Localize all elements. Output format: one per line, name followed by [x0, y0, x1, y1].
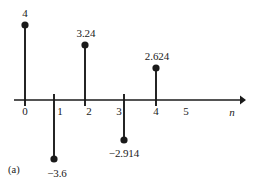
axis-tick-label: 2	[86, 106, 92, 117]
stem-value-label: 4	[22, 8, 27, 19]
stem-plot-figure: 4−3.63.24−2.9142.624 012345 n (a)	[0, 0, 258, 186]
axis-arrowhead	[240, 96, 246, 105]
stem-value-label: −3.6	[47, 168, 67, 179]
stem-value-label: −2.914	[109, 148, 139, 159]
stem-point-marker	[50, 155, 57, 162]
panel-label: (a)	[8, 164, 20, 175]
stem-point-marker	[152, 64, 159, 71]
stem-value-label: 3.24	[77, 28, 96, 39]
axis-tick-label: 0	[22, 106, 28, 117]
stem-point-marker	[81, 41, 88, 48]
stem-point-marker	[120, 136, 127, 143]
axis-tick-label: 3	[116, 106, 122, 117]
stem-value-label: 2.624	[145, 51, 169, 62]
axis-group	[14, 96, 246, 105]
axis-variable-label: n	[229, 107, 235, 118]
axis-tick-label: 4	[153, 106, 159, 117]
axis-tick-label: 5	[183, 106, 189, 117]
stems-group	[21, 21, 159, 162]
axis-tick-label: 1	[57, 106, 63, 117]
stem-point-marker	[21, 21, 28, 28]
